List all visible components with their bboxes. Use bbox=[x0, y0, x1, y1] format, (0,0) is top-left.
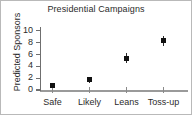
y-axis-tick bbox=[36, 30, 41, 31]
y-axis-tick-label: 10 bbox=[9, 26, 33, 35]
y-axis-tick-label: 8 bbox=[9, 38, 33, 47]
data-point-marker bbox=[50, 83, 55, 88]
data-point-marker bbox=[87, 77, 92, 82]
x-axis-tick bbox=[126, 87, 127, 93]
y-axis-tick bbox=[36, 89, 41, 90]
data-point-marker bbox=[124, 56, 129, 61]
x-axis-tick bbox=[52, 87, 53, 93]
y-axis-tick-label: 4 bbox=[9, 61, 33, 70]
y-axis-tick bbox=[36, 78, 41, 79]
y-axis-tick bbox=[36, 54, 41, 55]
y-axis-tick-label: 0 bbox=[9, 85, 33, 94]
y-axis-tick-label: 2 bbox=[9, 73, 33, 82]
data-point-marker bbox=[161, 38, 166, 43]
chart-figure: Presidential Campaigns Predicted Sponsor… bbox=[0, 0, 192, 115]
chart-title: Presidential Campaigns bbox=[1, 4, 191, 14]
x-axis-line bbox=[40, 90, 188, 92]
y-axis-tick bbox=[36, 42, 41, 43]
y-axis-line bbox=[40, 27, 41, 91]
x-axis-tick bbox=[89, 87, 90, 93]
x-axis-tick bbox=[163, 87, 164, 93]
y-axis-tick-label: 6 bbox=[9, 50, 33, 59]
y-axis-tick bbox=[36, 66, 41, 67]
x-axis-tick-label: Toss-up bbox=[136, 97, 192, 107]
